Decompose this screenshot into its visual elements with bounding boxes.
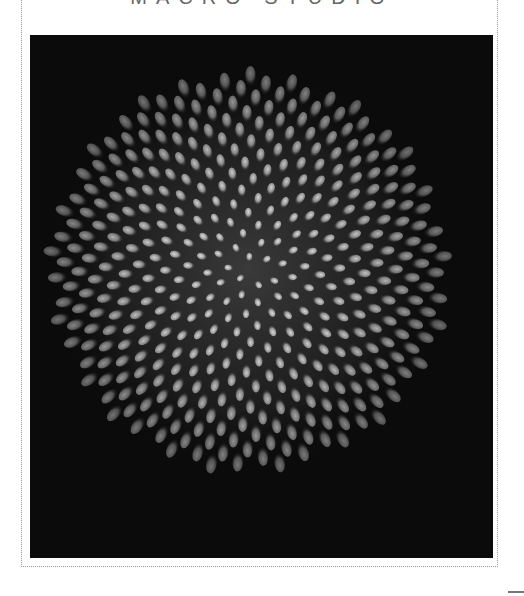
flower-image — [30, 35, 493, 558]
divider-line — [508, 591, 524, 593]
flower-photo — [30, 35, 493, 558]
